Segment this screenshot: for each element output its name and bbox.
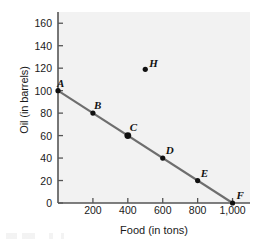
data-point-label-e: E	[201, 168, 208, 179]
data-point-marker	[143, 67, 148, 72]
page-artifact	[6, 233, 68, 239]
axes	[58, 12, 250, 203]
x-tick-label: 1,000	[211, 205, 253, 216]
y-axis-title: Oil (in barrels)	[18, 30, 30, 170]
x-axis-tick-labels: 2004006008001,000	[0, 205, 253, 221]
chart-figure: 020406080100120140160 2004006008001,000 …	[0, 0, 253, 243]
data-point-label-f: F	[237, 190, 244, 201]
data-point-label-h: H	[149, 58, 158, 69]
data-point-label-d: D	[166, 145, 174, 156]
series-line	[58, 91, 233, 203]
data-point-label-a: A	[57, 78, 64, 89]
x-axis-title: Food (in tons)	[58, 224, 250, 236]
data-point-label-b: B	[94, 100, 101, 111]
data-point-label-c: C	[130, 122, 137, 133]
y-tick-label: 20	[26, 176, 52, 187]
data-point-marker	[160, 155, 165, 160]
data-point-marker	[195, 178, 200, 183]
data-point-marker	[124, 132, 131, 139]
y-tick-label: 160	[26, 18, 52, 29]
data-points	[55, 67, 235, 206]
data-point-marker	[90, 111, 95, 116]
data-line	[58, 91, 233, 203]
data-point-marker	[55, 88, 60, 93]
